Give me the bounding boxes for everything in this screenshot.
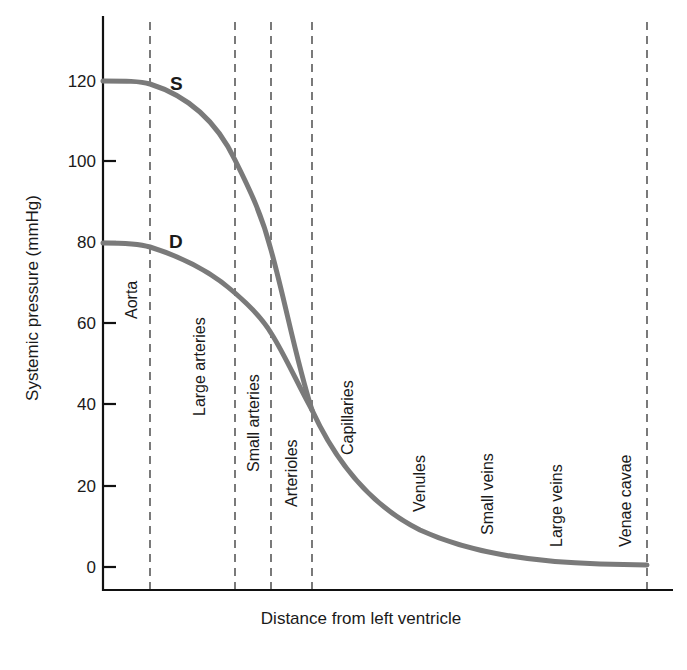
segment-labels: Aorta Large arteries Small arteries Arte… [123, 281, 634, 547]
ytick-label-80: 80 [77, 233, 96, 252]
ytick-label-0: 0 [87, 558, 96, 577]
curve-label-d: D [169, 231, 183, 252]
segment-label-venules: Venules [411, 455, 428, 512]
segment-label-capillaries: Capillaries [339, 380, 356, 455]
segment-label-large-arteries: Large arteries [191, 317, 208, 416]
ytick-label-60: 60 [77, 314, 96, 333]
ytick-label-120: 120 [68, 72, 96, 91]
segment-label-venae-cavae: Venae cavae [617, 454, 634, 547]
segment-label-large-veins: Large veins [548, 464, 565, 547]
segment-label-aorta: Aorta [123, 281, 140, 319]
x-axis-title: Distance from left ventricle [261, 609, 461, 628]
ytick-label-20: 20 [77, 477, 96, 496]
curve-label-s: S [170, 73, 183, 94]
segment-label-small-veins: Small veins [479, 453, 496, 535]
ytick-label-40: 40 [77, 395, 96, 414]
ytick-label-100: 100 [68, 152, 96, 171]
segment-label-arterioles: Arterioles [283, 439, 300, 507]
y-axis-title: Systemic pressure (mmHg) [23, 195, 42, 401]
systolic-curve [103, 81, 647, 565]
segment-boundaries [150, 22, 647, 590]
curves [103, 81, 647, 565]
segment-label-small-arteries: Small arteries [245, 374, 262, 472]
ytick-labels: 120 100 80 60 40 20 0 [68, 72, 96, 577]
pressure-chart: 120 100 80 60 40 20 0 Systemic pressure … [0, 0, 687, 670]
